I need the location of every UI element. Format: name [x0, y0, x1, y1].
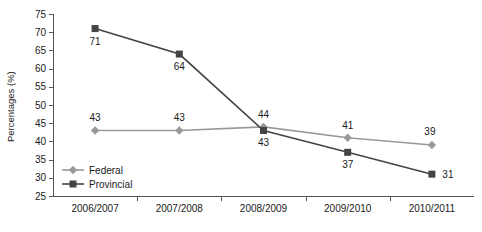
x-axis-category-label: 2006/2007 [71, 203, 119, 214]
y-axis-tick-label: 40 [35, 136, 47, 147]
data-point-provincial-2006-2007 [92, 25, 99, 32]
data-point-federal-2009-2010 [344, 134, 352, 142]
y-axis-tick-label: 25 [35, 191, 47, 202]
data-label-federal-2008-2009: 44 [258, 109, 270, 120]
x-axis-category-label: 2010/2011 [409, 203, 456, 214]
chart-canvas: Percentages (%)2530354045505560657075200… [0, 0, 482, 232]
legend-label-federal: Federal [89, 165, 123, 176]
data-label-federal-2009-2010: 41 [342, 120, 354, 131]
y-axis-tick-label: 30 [35, 172, 47, 183]
legend-label-provincial: Provincial [89, 179, 132, 190]
data-point-provincial-2007-2008 [176, 51, 183, 58]
y-axis-tick-label: 60 [35, 63, 47, 74]
data-point-provincial-2008-2009 [260, 127, 267, 134]
data-point-federal-2010-2011 [428, 141, 436, 149]
data-point-provincial-2009-2010 [344, 149, 351, 156]
y-axis-tick-label: 35 [35, 154, 47, 165]
x-axis-category-label: 2009/2010 [324, 203, 372, 214]
y-axis-tick-label: 50 [35, 100, 47, 111]
data-label-provincial-2007-2008: 64 [174, 61, 186, 72]
y-axis-title: Percentages (%) [5, 71, 16, 142]
data-label-federal-2010-2011: 39 [424, 126, 436, 137]
data-label-provincial-2009-2010: 37 [342, 159, 354, 170]
data-point-federal-2006-2007 [91, 126, 99, 134]
data-label-provincial-2006-2007: 71 [90, 36, 102, 47]
data-label-federal-2007-2008: 43 [174, 112, 186, 123]
data-label-provincial-2010-2011: 31 [442, 169, 454, 180]
data-label-federal-2006-2007: 43 [90, 112, 102, 123]
y-axis-tick-label: 45 [35, 118, 47, 129]
y-axis-tick-label: 75 [35, 9, 47, 20]
y-axis-tick-label: 55 [35, 81, 47, 92]
legend-marker-federal [69, 166, 77, 174]
y-axis-tick-label: 70 [35, 27, 47, 38]
x-axis-category-label: 2007/2008 [156, 203, 204, 214]
line-chart: Percentages (%)2530354045505560657075200… [0, 0, 482, 232]
y-axis-tick-label: 65 [35, 45, 47, 56]
data-point-provincial-2010-2011 [428, 171, 435, 178]
data-label-provincial-2008-2009: 43 [258, 137, 270, 148]
series-line-provincial [95, 29, 432, 175]
legend-marker-provincial [70, 181, 77, 188]
data-point-federal-2007-2008 [175, 126, 183, 134]
x-axis-category-label: 2008/2009 [240, 203, 288, 214]
